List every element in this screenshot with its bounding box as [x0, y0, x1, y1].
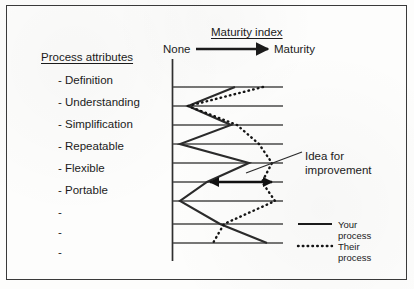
diagram-page: Process attributes - Definition - Unders…: [0, 0, 414, 289]
diagram-artwork: [0, 0, 414, 289]
series-line-your-process: [180, 87, 267, 243]
series-line-their-process: [188, 87, 275, 243]
